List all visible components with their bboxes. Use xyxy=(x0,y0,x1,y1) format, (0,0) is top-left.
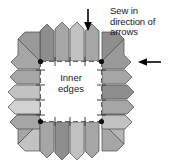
inner-label-line-1: Inner xyxy=(46,72,96,83)
patch-top-4 xyxy=(85,24,99,61)
sew-direction-callout: Sew in direction of arrows xyxy=(110,6,168,38)
patch-left-3 xyxy=(8,100,40,114)
inner-edges-label: Inner edges xyxy=(46,72,96,94)
right-patch-group xyxy=(102,70,134,129)
bottom-patch-group xyxy=(40,122,99,160)
callout-line-1: Sew in xyxy=(110,5,138,16)
patch-top-3 xyxy=(70,22,84,61)
patch-top-1 xyxy=(40,24,54,61)
patch-left-2 xyxy=(8,85,40,99)
patch-right-3 xyxy=(102,100,134,114)
corner-dot-bottom-left xyxy=(38,119,43,124)
callout-line-2: direction xyxy=(110,16,145,27)
patch-bottom-2 xyxy=(55,122,69,160)
patch-bottom-3 xyxy=(70,122,84,160)
right-arrow-icon xyxy=(138,58,161,66)
corner-dot-bottom-right xyxy=(99,119,104,124)
patch-left-4 xyxy=(10,115,40,129)
patch-right-4 xyxy=(102,115,132,129)
patch-bottom-1 xyxy=(40,122,54,158)
corner-dot-top-left xyxy=(38,59,43,64)
patch-right-2 xyxy=(102,85,134,99)
patchwork-figure: Sew in direction of arrows Inner edges xyxy=(0,0,169,167)
patch-bottom-4 xyxy=(85,122,99,158)
patch-top-2 xyxy=(55,22,69,61)
corner-top-left-group xyxy=(11,32,40,69)
left-patch-group xyxy=(8,70,40,129)
top-patch-group xyxy=(40,22,99,61)
inner-label-line-2: edges xyxy=(46,83,96,94)
corner-top-right-group xyxy=(102,32,131,69)
patch-left-1 xyxy=(10,70,40,84)
corner-dot-top-right xyxy=(99,59,104,64)
patch-right-1 xyxy=(102,70,132,84)
